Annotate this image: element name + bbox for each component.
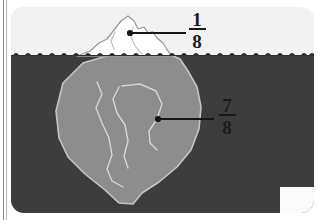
fraction-numerator: 7 — [210, 96, 244, 113]
iceberg-illustration — [11, 7, 314, 213]
illustration-panel — [11, 7, 314, 213]
left-edge-rule-secondary — [6, 0, 7, 220]
fraction-label-above-water: 1 8 — [180, 10, 214, 49]
fraction-numerator: 1 — [180, 10, 214, 27]
left-edge-rule — [3, 0, 4, 220]
fraction-denominator: 8 — [210, 118, 244, 135]
iceberg-figure: 1 8 7 8 — [0, 0, 325, 220]
fraction-denominator: 8 — [180, 32, 214, 49]
fraction-label-below-water: 7 8 — [210, 96, 244, 135]
